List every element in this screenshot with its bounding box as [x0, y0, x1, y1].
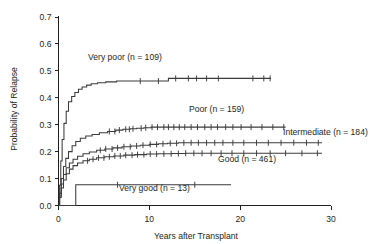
series-label-intermediate: Intermediate (n = 184): [283, 128, 368, 137]
y-tick-label: 0.2: [40, 147, 52, 157]
x-axis-title: Years after Transplant: [154, 231, 238, 241]
y-axis-title-wrapper: Probability of Relapse: [9, 49, 19, 169]
x-axis-tick-labels: 0102030: [56, 214, 336, 224]
y-axis-tick-labels: 0.00.10.20.30.40.50.60.7: [40, 12, 52, 211]
x-tick-label: 10: [145, 214, 155, 224]
x-tick-label: 30: [326, 214, 336, 224]
chart-canvas: 0.00.10.20.30.40.50.60.7 0102030 Years a…: [0, 0, 376, 244]
y-tick-label: 0.6: [40, 39, 52, 49]
series-label-good: Good (n = 461): [218, 155, 276, 164]
x-tick-label: 0: [56, 214, 61, 224]
y-tick-label: 0.0: [40, 201, 52, 211]
y-axis-title: Probability of Relapse: [9, 67, 19, 151]
curve-poor: [59, 127, 286, 205]
y-tick-label: 0.7: [40, 12, 52, 22]
y-tick-label: 0.3: [40, 120, 52, 130]
curve-good: [59, 153, 322, 205]
series-label-very-poor: Very poor (n = 109): [88, 53, 162, 62]
series-label-poor: Poor (n = 159): [189, 105, 244, 114]
relapse-probability-chart: 0.00.10.20.30.40.50.60.7 0102030 Years a…: [0, 0, 376, 244]
series-curves: [59, 78, 322, 205]
x-tick-label: 20: [235, 214, 245, 224]
y-tick-label: 0.1: [40, 174, 52, 184]
y-tick-label: 0.5: [40, 66, 52, 76]
curve-intermediate: [59, 143, 322, 206]
y-tick-label: 0.4: [40, 93, 52, 103]
series-label-very-good: Very good (n = 13): [119, 184, 190, 193]
